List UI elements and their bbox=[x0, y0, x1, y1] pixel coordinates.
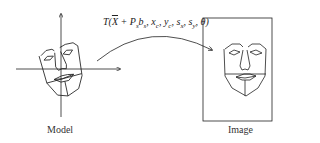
model-face-icon bbox=[38, 42, 88, 100]
image-face-icon bbox=[224, 44, 266, 96]
image-caption: Image bbox=[228, 124, 253, 135]
transform-formula: T(X + Psbs, xc, yc, sx, sy, θ) bbox=[103, 16, 209, 30]
transform-arrow bbox=[97, 36, 212, 61]
formula-mid: + P bbox=[118, 16, 136, 27]
formula-xc: , x bbox=[146, 16, 155, 27]
model-caption: Model bbox=[47, 124, 73, 135]
formula-theta: , θ) bbox=[196, 16, 209, 27]
formula-yc: , y bbox=[159, 16, 168, 27]
image-frame bbox=[203, 18, 272, 121]
formula-prefix: T( bbox=[103, 16, 112, 27]
